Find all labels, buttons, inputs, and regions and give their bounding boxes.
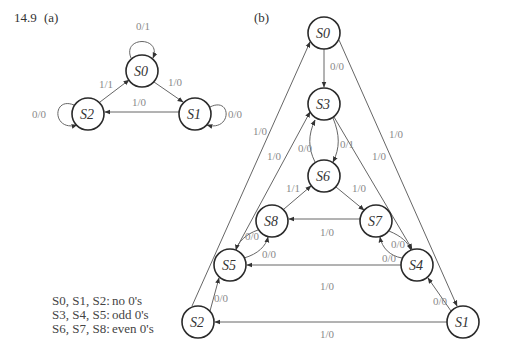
edge-label: 1/0 — [132, 96, 147, 108]
edge-b-s0-s1 — [339, 40, 457, 306]
state-node-b-s3: S3 — [308, 88, 340, 120]
legend-states: S3, S4, S5: — [52, 307, 110, 322]
svg-text:S4: S4 — [409, 258, 423, 273]
edge-label: 0/0 — [228, 108, 243, 120]
state-diagram-canvas: 14.9 (a) (b) 0/1 1/0 0/0 1/0 0/0 1/1 0/0… — [0, 0, 506, 358]
svg-text:S2: S2 — [80, 107, 94, 122]
svg-text:S5: S5 — [222, 258, 236, 273]
state-node-b-s2: S2 — [182, 306, 214, 338]
edge-label: 1/0 — [372, 150, 387, 162]
edge-label: 1/0 — [320, 226, 335, 238]
edge-label: 1/0 — [253, 125, 268, 137]
edge-label: 0/0 — [262, 248, 277, 260]
edge-label: 0/0 — [32, 108, 47, 120]
svg-text:S1: S1 — [455, 315, 469, 330]
edge-label: 0/0 — [298, 142, 313, 154]
legend-states: S0, S1, S2: — [52, 293, 110, 308]
svg-text:S2: S2 — [190, 315, 204, 330]
svg-text:S8: S8 — [264, 214, 278, 229]
svg-text:S3: S3 — [316, 97, 330, 112]
edge-b-s2-s0 — [192, 42, 310, 306]
svg-text:S1: S1 — [187, 107, 201, 122]
svg-text:S0: S0 — [134, 64, 148, 79]
edge-b-s3-s6 — [333, 118, 338, 162]
edge-label: 1/0 — [320, 280, 335, 292]
svg-text:S6: S6 — [316, 169, 330, 184]
edge-label: 1/0 — [267, 150, 282, 162]
state-node-a-s0: S0 — [126, 55, 158, 87]
edge-b-s6-s3 — [310, 120, 315, 162]
svg-text:S0: S0 — [316, 26, 330, 41]
problem-number: 14.9 — [14, 10, 37, 25]
part-a-label: (a) — [44, 10, 58, 25]
edge-label: 1/0 — [168, 76, 183, 88]
state-node-a-s2: S2 — [72, 98, 104, 130]
legend-meaning: even 0's — [112, 321, 154, 336]
edge-label: 1/0 — [352, 182, 367, 194]
svg-text:S7: S7 — [368, 214, 383, 229]
edge-label: 1/1 — [99, 78, 113, 90]
edge-label: 0/0 — [330, 60, 345, 72]
legend-meaning: no 0's — [112, 293, 142, 308]
legend: S0, S1, S2: no 0's S3, S4, S5: odd 0's S… — [52, 293, 154, 336]
edge-label: 0/0 — [382, 252, 397, 264]
edge-label: 0/0 — [391, 238, 406, 250]
state-node-b-s8: S8 — [256, 205, 288, 237]
legend-states: S6, S7, S8: — [52, 321, 110, 336]
state-node-a-s1: S1 — [179, 98, 211, 130]
edge-label: 0/0 — [245, 230, 260, 242]
state-node-b-s6: S6 — [308, 160, 340, 192]
edge-label: 1/1 — [286, 182, 300, 194]
part-b-label: (b) — [254, 10, 269, 25]
legend-meaning: odd 0's — [112, 307, 149, 322]
edge-label: 0/0 — [214, 292, 229, 304]
state-node-b-s0: S0 — [308, 17, 340, 49]
edge-label: 0/1 — [136, 20, 150, 32]
edge-label: 1/0 — [389, 128, 404, 140]
part-a-nodes: S0 S1 S2 — [72, 55, 211, 130]
state-node-b-s7: S7 — [360, 205, 392, 237]
state-node-b-s5: S5 — [214, 249, 246, 281]
edge-label: 0/1 — [340, 138, 354, 150]
state-node-b-s4: S4 — [401, 249, 433, 281]
state-node-b-s1: S1 — [447, 306, 479, 338]
edge-label: 1/0 — [320, 328, 335, 340]
edge-label: 0/0 — [433, 295, 448, 307]
